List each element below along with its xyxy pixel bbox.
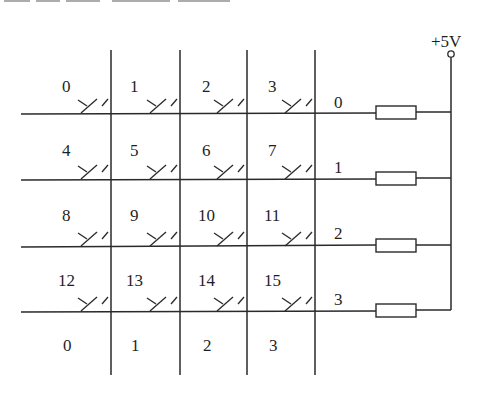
resistor-row-3: [376, 304, 416, 317]
row-line-1: [21, 179, 376, 180]
column-label: 3: [269, 336, 278, 355]
key-switch-icon: [282, 99, 312, 113]
key-label: 12: [58, 271, 75, 290]
key-label: 2: [202, 77, 211, 96]
row-line-3: [21, 311, 376, 312]
column-label: 2: [203, 336, 212, 355]
key-switch-icon: [147, 297, 177, 311]
key-label: 1: [130, 77, 139, 96]
key-switch-icon: [282, 232, 312, 246]
key-switch-icon: [282, 297, 312, 311]
key-switch-icon: [78, 99, 108, 113]
key-label: 3: [268, 77, 277, 96]
row-label: 2: [334, 224, 343, 243]
key-label: 4: [62, 141, 71, 160]
row-line-2: [21, 245, 376, 247]
row-label: 1: [334, 158, 343, 177]
key-label: 5: [130, 141, 139, 160]
matrix-keyboard-diagram: +5V 0 1 2 3 4 5 6 7 8 9 10 11 12 13 14 1…: [0, 0, 485, 396]
key-switch-icon: [214, 99, 244, 113]
row-labels: 0 1 2 3: [334, 93, 343, 309]
key-label: 13: [126, 271, 143, 290]
key-switch-icon: [78, 165, 108, 179]
row-line-0: [21, 113, 376, 114]
key-label: 14: [198, 271, 216, 290]
supply-rail: +5V: [431, 32, 462, 310]
key-switch-icon: [214, 165, 244, 179]
pull-up-resistors: [376, 106, 451, 317]
key-label: 8: [62, 206, 71, 225]
key-label: 7: [268, 141, 277, 160]
key-switch-icon: [147, 232, 177, 246]
key-switch-icon: [214, 297, 244, 311]
key-switch-icon: [282, 165, 312, 179]
key-switch-icon: [78, 297, 108, 311]
key-label: 6: [202, 141, 211, 160]
resistor-row-0: [376, 106, 416, 119]
supply-label: +5V: [431, 32, 462, 51]
resistor-row-1: [376, 172, 416, 185]
key-label: 9: [130, 206, 139, 225]
key-switch-icon: [214, 232, 244, 246]
row-label: 0: [334, 93, 343, 112]
key-switch-icon: [147, 165, 177, 179]
key-switch-icon: [78, 232, 108, 246]
resistor-row-2: [376, 239, 416, 252]
key-switch-icon: [147, 99, 177, 113]
supply-terminal-icon: [448, 51, 454, 57]
key-label: 10: [198, 206, 215, 225]
row-label: 3: [334, 290, 343, 309]
column-labels: 0 1 2 3: [63, 336, 278, 355]
column-label: 1: [131, 336, 140, 355]
column-label: 0: [63, 336, 72, 355]
key-label: 15: [264, 271, 281, 290]
key-label: 0: [62, 77, 71, 96]
key-label: 11: [264, 206, 280, 225]
